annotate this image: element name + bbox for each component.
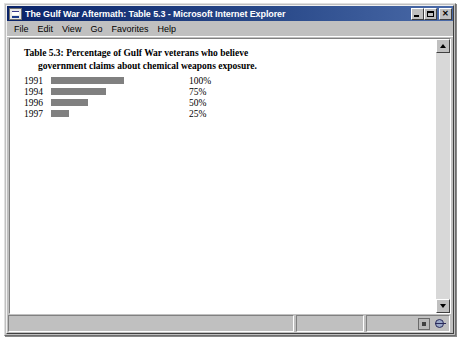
window-title: The Gulf War Aftermath: Table 5.3 - Micr…: [25, 9, 411, 19]
menu-label-go: Go: [90, 24, 102, 34]
close-icon: ✕: [440, 9, 451, 19]
status-bar: [8, 315, 452, 332]
minimize-icon: [414, 15, 419, 17]
row-year-1994: 1994: [24, 86, 51, 97]
security-zone-icon[interactable]: [418, 318, 430, 330]
bar-1991: [51, 77, 124, 84]
row-value-1996: 50%: [149, 97, 211, 108]
row-year-1997: 1997: [24, 108, 51, 119]
menu-bar: File Edit View Go Favorites Help: [7, 22, 453, 36]
maximize-button[interactable]: [424, 8, 437, 20]
menu-item-view[interactable]: View: [58, 23, 86, 35]
bar-chart-table: 1991 100% 1994 75% 1996 50%: [24, 75, 211, 119]
title-bar[interactable]: The Gulf War Aftermath: Table 5.3 - Micr…: [7, 6, 453, 21]
menu-label-view: View: [62, 24, 81, 34]
document-icon: [9, 8, 22, 20]
status-message: [8, 315, 294, 332]
row-bar-cell-1991: [51, 75, 149, 86]
scroll-up-button[interactable]: [436, 39, 450, 53]
vertical-scrollbar[interactable]: [435, 39, 450, 313]
globe-icon[interactable]: [434, 318, 446, 330]
bar-1997: [51, 110, 69, 117]
table-row: 1996 50%: [24, 97, 211, 108]
table-caption-line2: government claims about chemical weapons…: [24, 60, 284, 73]
menu-label-file: File: [14, 24, 29, 34]
row-year-1996: 1996: [24, 97, 51, 108]
menu-label-help: Help: [157, 24, 176, 34]
row-value-1991: 100%: [149, 75, 211, 86]
menu-label-favorites: Favorites: [111, 24, 148, 34]
row-value-1997: 25%: [149, 108, 211, 119]
row-bar-cell-1994: [51, 86, 149, 97]
close-button[interactable]: ✕: [439, 8, 452, 20]
minimize-button[interactable]: [411, 8, 424, 20]
row-bar-cell-1997: [51, 108, 149, 119]
menu-item-edit[interactable]: Edit: [34, 23, 59, 35]
row-bar-cell-1996: [51, 97, 149, 108]
status-progress-pane: [296, 315, 364, 332]
table-row: 1991 100%: [24, 75, 211, 86]
row-value-1994: 75%: [149, 86, 211, 97]
window-controls: ✕: [411, 8, 452, 20]
bar-1996: [51, 99, 88, 106]
document-body: Table 5.3: Percentage of Gulf War vetera…: [10, 39, 435, 119]
table-row: 1994 75%: [24, 86, 211, 97]
chevron-up-icon: [440, 44, 446, 48]
menu-item-go[interactable]: Go: [86, 23, 107, 35]
bar-chart-rows: 1991 100% 1994 75% 1996 50%: [24, 75, 211, 119]
menu-item-help[interactable]: Help: [153, 23, 181, 35]
menu-item-file[interactable]: File: [10, 23, 34, 35]
document-frame: Table 5.3: Percentage of Gulf War vetera…: [9, 38, 451, 314]
table-caption-line1: Table 5.3: Percentage of Gulf War vetera…: [24, 48, 248, 58]
menu-item-favorites[interactable]: Favorites: [107, 23, 153, 35]
browser-window: The Gulf War Aftermath: Table 5.3 - Micr…: [4, 3, 456, 336]
bar-1994: [51, 88, 106, 95]
menu-label-edit: Edit: [38, 24, 54, 34]
table-row: 1997 25%: [24, 108, 211, 119]
document-page: Table 5.3: Percentage of Gulf War vetera…: [10, 39, 435, 313]
scrollbar-track[interactable]: [436, 53, 450, 299]
maximize-icon: [427, 11, 434, 17]
status-zone-pane[interactable]: [366, 315, 450, 332]
chevron-down-icon: [440, 304, 446, 308]
row-year-1991: 1991: [24, 75, 51, 86]
scroll-down-button[interactable]: [436, 299, 450, 313]
table-caption: Table 5.3: Percentage of Gulf War vetera…: [24, 47, 284, 72]
